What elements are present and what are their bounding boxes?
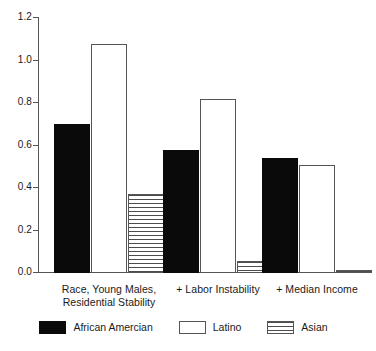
legend-item: Asian — [267, 321, 327, 334]
legend-item: Latino — [179, 321, 242, 334]
legend-label: Latino — [213, 321, 242, 333]
legend-swatch-icon — [267, 321, 294, 334]
bars-layer — [0, 0, 367, 286]
legend-label: African Amercian — [73, 321, 152, 333]
legend-item: African Amercian — [39, 321, 152, 334]
bar — [128, 194, 164, 273]
x-axis-category-label: + Median Income — [237, 283, 376, 296]
bar — [262, 158, 298, 273]
chart-legend: African AmercianLatinoAsian — [0, 316, 367, 338]
plot-area: 0.00.20.40.60.81.01.2 — [0, 0, 367, 286]
bar — [54, 124, 90, 273]
bar — [91, 44, 127, 274]
bar — [336, 270, 372, 273]
legend-label: Asian — [301, 321, 327, 333]
bar — [163, 150, 199, 273]
legend-swatch-icon — [39, 321, 66, 334]
bar — [200, 99, 236, 273]
x-axis-category-label-line: Residential Stability — [29, 296, 189, 309]
bar — [299, 165, 335, 273]
x-axis-category-labels: Race, Young Males,Residential Stability+… — [0, 283, 367, 317]
legend-swatch-icon — [179, 321, 206, 334]
x-axis-category-label-line: + Median Income — [237, 283, 376, 296]
